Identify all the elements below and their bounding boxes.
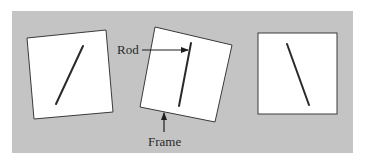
rod-and-frame-diagram: Rod Frame <box>0 0 366 161</box>
frame-label: Frame <box>148 134 181 149</box>
panel-right <box>258 33 337 114</box>
panel-left <box>27 30 113 119</box>
rod-label: Rod <box>117 42 139 57</box>
